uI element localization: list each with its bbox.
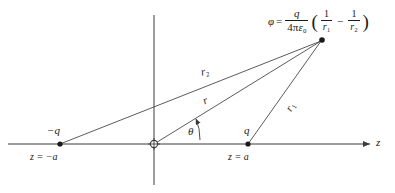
term2-numerator: 1	[349, 9, 358, 20]
positive-charge-dot	[245, 141, 250, 146]
prefactor-denominator: 4πε0	[285, 20, 308, 35]
term1-denominator: r1	[321, 20, 332, 33]
positive-charge-label: q	[244, 125, 250, 136]
negative-charge-position-label: z = −a	[30, 152, 57, 162]
distance-line-r1	[248, 41, 321, 144]
term1-numerator: 1	[322, 9, 331, 20]
theta-arc	[196, 119, 200, 140]
prefactor-numerator: q	[292, 8, 302, 20]
potential-formula: φ = q 4πε0 ( 1 r1 − 1 r2 )	[268, 8, 369, 35]
negative-charge-label: −q	[47, 125, 60, 136]
dipole-potential-figure: r2 r r1 −q q z = −a z = a z θ φ = q 4πε0…	[0, 0, 395, 193]
formula-term-2: 1 r2	[348, 9, 359, 33]
z-axis-label: z	[376, 137, 380, 148]
origin-marker	[148, 138, 160, 150]
theta-label: θ	[188, 126, 193, 137]
term2-denominator: r2	[348, 20, 359, 33]
negative-charge-dot	[57, 141, 62, 146]
formula-term-1: 1 r1	[321, 9, 332, 33]
positive-charge-position-label: z = a	[228, 152, 249, 162]
field-point-dot	[319, 37, 325, 43]
formula-equals: =	[276, 16, 282, 27]
distance-line-r	[154, 41, 321, 144]
formula-phi: φ	[268, 16, 274, 27]
formula-prefactor: q 4πε0	[285, 8, 308, 35]
formula-operator: −	[335, 16, 345, 27]
